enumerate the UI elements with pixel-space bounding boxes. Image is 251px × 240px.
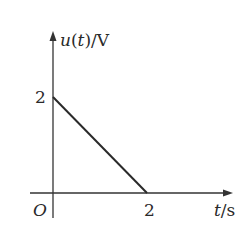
x-axis-arrow-icon <box>223 190 233 197</box>
origin-label: O <box>33 202 47 219</box>
x-axis-unit: /s <box>221 200 235 220</box>
y-axis-arrow-icon <box>50 31 57 41</box>
data-line-u-of-t <box>53 97 147 193</box>
y-axis-unit: /V <box>91 30 109 50</box>
x-axis-var: t <box>214 200 221 220</box>
paren-open: ( <box>71 30 78 50</box>
x-tick-label: 2 <box>144 202 155 219</box>
y-axis-label: u(t)/V <box>60 32 109 49</box>
y-axis-func: u <box>60 30 71 50</box>
y-tick-label: 2 <box>35 89 46 106</box>
x-axis-label: t/s <box>214 202 235 219</box>
